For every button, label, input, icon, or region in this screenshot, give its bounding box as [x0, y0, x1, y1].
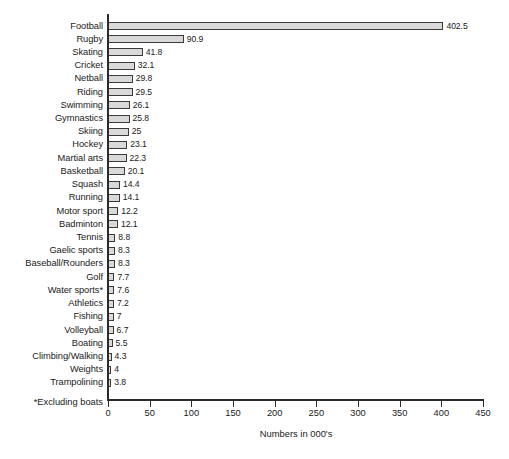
bar-category-label: Golf: [0, 271, 103, 284]
x-tick-label: 350: [380, 407, 420, 419]
bar-value-label: 14.1: [123, 191, 140, 204]
bar-value-label: 12.2: [121, 205, 138, 218]
bar-value-label: 41.8: [146, 46, 163, 59]
bar-row: Gaelic sports8.3: [0, 244, 509, 257]
bar-row: Motor sport12.2: [0, 205, 509, 218]
horizontal-bar-chart: Football402.5Rugby90.9Skating41.8Cricket…: [0, 0, 509, 459]
bar-category-label: Water sports*: [0, 284, 103, 297]
bar-value-label: 29.5: [136, 86, 153, 99]
bar-row: Skating41.8: [0, 46, 509, 59]
bar-value-label: 23.1: [130, 138, 147, 151]
bar-category-label: Cricket: [0, 59, 103, 72]
bar-row: Skiing25: [0, 125, 509, 138]
bar-row: Hockey23.1: [0, 138, 509, 151]
bar-category-label: Gaelic sports: [0, 244, 103, 257]
bar-row: Netball29.8: [0, 72, 509, 85]
bar-value-label: 7.6: [117, 284, 129, 297]
bar-segment: [108, 247, 115, 255]
x-tick-label: 400: [421, 407, 461, 419]
bar-category-label: Gymnastics: [0, 112, 103, 125]
bar-category-label: Netball: [0, 72, 103, 85]
page-bottom-edge-artifact: [0, 452, 509, 459]
bar-row: Athletics7.2: [0, 297, 509, 310]
bar-value-label: 26.1: [133, 99, 150, 112]
bar-row: Badminton12.1: [0, 218, 509, 231]
x-axis-line: [107, 399, 484, 401]
bar-row: Baseball/Rounders8.3: [0, 257, 509, 270]
bar-value-label: 6.7: [117, 324, 129, 337]
x-tick-label: 450: [463, 407, 503, 419]
bar-category-label: Riding: [0, 86, 103, 99]
bar-segment: [108, 128, 129, 136]
bar-value-label: 3.8: [114, 376, 126, 389]
bar-category-label: Motor sport: [0, 205, 103, 218]
x-tick-label: 300: [338, 407, 378, 419]
bar-category-label: Hockey: [0, 138, 103, 151]
bar-value-label: 5.5: [116, 337, 128, 350]
bar-segment: [108, 207, 118, 215]
bar-row: Golf7.7: [0, 271, 509, 284]
bar-value-label: 7.2: [117, 297, 129, 310]
bar-row: Gymnastics25.8: [0, 112, 509, 125]
bar-category-label: Badminton: [0, 218, 103, 231]
bar-segment: [108, 115, 130, 123]
bar-category-label: Basketball: [0, 165, 103, 178]
bar-category-label: Athletics: [0, 297, 103, 310]
bar-row: Volleyball6.7: [0, 324, 509, 337]
bar-row: Tennis8.8: [0, 231, 509, 244]
bar-value-label: 32.1: [138, 59, 155, 72]
bar-row: Weights4: [0, 363, 509, 376]
bar-row: Water sports*7.6: [0, 284, 509, 297]
bar-segment: [108, 194, 120, 202]
bar-row: Martial arts22.3: [0, 152, 509, 165]
bar-segment: [108, 234, 115, 242]
bar-value-label: 14.4: [123, 178, 140, 191]
bar-row: Trampolining3.8: [0, 376, 509, 389]
bar-segment: [108, 62, 135, 70]
bar-rows: Football402.5Rugby90.9Skating41.8Cricket…: [0, 0, 509, 400]
bar-value-label: 7: [117, 310, 122, 323]
y-axis-line: [107, 14, 109, 401]
bar-value-label: 12.1: [121, 218, 138, 231]
x-axis-title: Numbers in 000's: [108, 428, 484, 440]
bar-category-label: Trampolining: [0, 376, 103, 389]
bar-row: Climbing/Walking4.3: [0, 350, 509, 363]
bar-category-label: Martial arts: [0, 152, 103, 165]
x-tick-label: 150: [213, 407, 253, 419]
x-tick-label: 100: [171, 407, 211, 419]
bar-value-label: 25.8: [133, 112, 150, 125]
bar-category-label: Weights: [0, 363, 103, 376]
bar-segment: [108, 154, 127, 162]
bar-segment: [108, 48, 143, 56]
bar-value-label: 8.3: [118, 257, 130, 270]
bar-segment: [108, 260, 115, 268]
chart-footnote: *Excluding boats: [0, 396, 103, 409]
bar-value-label: 20.1: [128, 165, 145, 178]
bar-category-label: Swimming: [0, 99, 103, 112]
bar-value-label: 25: [132, 125, 141, 138]
bar-segment: [108, 220, 118, 228]
x-axis-ticks: 050100150200250300350400450: [0, 0, 509, 40]
bar-value-label: 4.3: [115, 350, 127, 363]
bar-segment: [108, 181, 120, 189]
bar-value-label: 22.3: [130, 152, 147, 165]
bar-segment: [108, 141, 127, 149]
bar-row: Swimming26.1: [0, 99, 509, 112]
bar-category-label: Tennis: [0, 231, 103, 244]
bar-segment: [108, 167, 125, 175]
bar-value-label: 7.7: [117, 271, 129, 284]
bar-category-label: Climbing/Walking: [0, 350, 103, 363]
x-tick-label: 250: [296, 407, 336, 419]
bar-row: Riding29.5: [0, 86, 509, 99]
bar-segment: [108, 88, 133, 96]
bar-row: Basketball20.1: [0, 165, 509, 178]
bar-category-label: Running: [0, 191, 103, 204]
bar-row: Cricket32.1: [0, 59, 509, 72]
bar-segment: [108, 101, 130, 109]
bar-value-label: 8.3: [118, 244, 130, 257]
bar-category-label: Fishing: [0, 310, 103, 323]
bar-category-label: Skating: [0, 46, 103, 59]
bar-segment: [108, 75, 133, 83]
bar-value-label: 8.8: [118, 231, 130, 244]
bar-row: Boating5.5: [0, 337, 509, 350]
